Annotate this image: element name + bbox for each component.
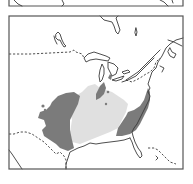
main-map-panel [9,16,183,169]
top-map-panel [9,0,183,6]
range-map [0,0,193,184]
